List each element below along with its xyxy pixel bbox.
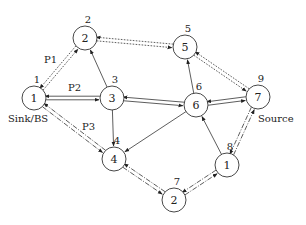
edge-n8-to-n9 xyxy=(182,170,216,192)
nodes: 112233445566791827 xyxy=(22,14,270,212)
node-n1: 11 xyxy=(22,74,46,110)
node-id-label: 2 xyxy=(85,14,91,25)
path-p2-label: P2 xyxy=(68,82,81,93)
node-label: 4 xyxy=(111,153,118,166)
edge-n6-to-n4 xyxy=(125,112,186,152)
path-p1-label: P1 xyxy=(44,54,57,65)
network-routing-diagram: 112233445566791827 Sink/BS Source P1 P2 … xyxy=(0,0,306,225)
node-id-label: 8 xyxy=(227,141,233,152)
edge-n9-to-n8 xyxy=(185,174,217,195)
node-label: 2 xyxy=(171,194,178,207)
edge-n7-to-n5 xyxy=(195,52,249,89)
node-label: 5 xyxy=(182,41,189,54)
edge-n4-to-n9 xyxy=(123,167,162,194)
edge-n2-to-n5 xyxy=(97,41,172,48)
node-label: 1 xyxy=(224,159,231,172)
node-id-label: 1 xyxy=(34,74,40,85)
node-id-label: 3 xyxy=(112,74,118,85)
node-n5: 55 xyxy=(173,23,197,59)
edge-n8-to-n7 xyxy=(234,110,255,155)
path-p3-label: P3 xyxy=(82,121,95,132)
node-id-label: 7 xyxy=(174,176,180,187)
node-n9: 27 xyxy=(162,176,186,212)
node-label: 3 xyxy=(109,92,116,105)
node-n8: 18 xyxy=(215,141,239,177)
node-id-label: 6 xyxy=(196,81,202,92)
node-id-label: 5 xyxy=(185,23,191,34)
edge-n5-to-n2 xyxy=(96,37,173,44)
edge-n6-to-n5 xyxy=(187,60,193,93)
node-label: 7 xyxy=(255,91,262,104)
node-id-label: 9 xyxy=(258,73,264,84)
edge-n3-to-n2 xyxy=(90,50,107,87)
node-n2: 22 xyxy=(73,14,97,50)
node-n4: 44 xyxy=(102,135,126,171)
node-label: 1 xyxy=(31,92,38,105)
source-label: Source xyxy=(258,113,294,124)
node-n7: 79 xyxy=(246,73,270,109)
edge-n8-to-n6 xyxy=(202,117,222,155)
node-n6: 66 xyxy=(184,81,208,117)
node-id-label: 4 xyxy=(114,135,120,146)
node-label: 6 xyxy=(193,99,200,112)
sink-bs-label: Sink/BS xyxy=(8,113,48,124)
edge-n4-to-n1 xyxy=(44,103,106,150)
node-label: 2 xyxy=(82,32,89,45)
edge-n9-to-n4 xyxy=(124,164,165,192)
